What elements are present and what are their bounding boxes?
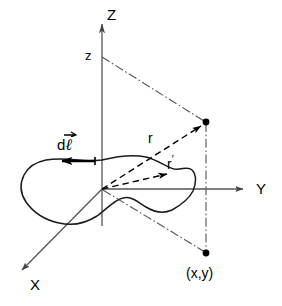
r-prime-mark: ′: [172, 153, 174, 165]
z-axis-label: Z: [107, 7, 116, 22]
r-prime-vector-line: [102, 174, 167, 189]
z-height-label: z: [85, 49, 92, 62]
field-point-3d-dot: [203, 119, 210, 126]
dl-ell-letter: ℓ: [65, 136, 73, 153]
physics-diagram: Z Y X z r r′ dℓ (x,y): [0, 0, 282, 306]
dl-vector-arrow-icon: [64, 131, 77, 137]
x-axis-line: [22, 189, 102, 270]
y-axis-label: Y: [256, 181, 266, 196]
diagram-canvas: [0, 0, 282, 306]
field-point-xy-dot: [203, 250, 210, 257]
dl-vector-label: dℓ: [57, 136, 73, 154]
r-prime-vector-label: r′: [167, 154, 174, 171]
x-axis-label: X: [30, 277, 40, 292]
r-vector-label: r: [148, 131, 153, 145]
field-point-label: (x,y): [186, 266, 213, 280]
z-projection-line: [102, 57, 204, 121]
